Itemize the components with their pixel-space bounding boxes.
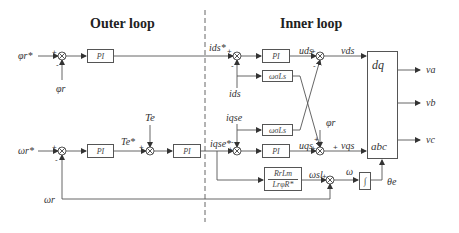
sum-ids: [233, 52, 241, 60]
speed-feedback-label: ωr: [44, 195, 55, 205]
pi-iqs-block: PI: [262, 144, 290, 158]
abc-label: abc: [371, 140, 387, 152]
flux-ref-label: φr*: [18, 51, 32, 61]
sum-torque: [146, 147, 154, 155]
theta-label: θe: [387, 177, 396, 187]
vb-output-label: vb: [426, 98, 435, 108]
sum-vqs: [316, 147, 324, 155]
slip-calc-block: RrLm LrφR*: [264, 167, 302, 191]
sign-minus: -: [313, 62, 316, 70]
dq-label: dq: [372, 58, 384, 73]
vqs-label: vqs: [341, 141, 354, 151]
pi-ids-block: PI: [262, 49, 290, 63]
sign-minus: -: [231, 138, 234, 146]
sign-plus: +: [139, 144, 144, 152]
flux-feedback-label: φr: [56, 84, 65, 94]
torque-feedback-label: Te: [145, 112, 155, 123]
vc-output-label: vc: [426, 135, 435, 145]
sum-vds: [316, 52, 324, 60]
sign-plus: +: [311, 145, 316, 153]
sum-speed: [58, 147, 66, 155]
sign-plus: +: [227, 48, 232, 56]
inner-loop-title: Inner loop: [280, 16, 342, 32]
sign-plus: +: [52, 49, 57, 57]
decoupling-d-block: ωσLs: [262, 70, 293, 82]
sign-plus: +: [228, 146, 233, 154]
sign-minus: -: [56, 61, 59, 69]
slip-freq-label: ωsl: [309, 170, 323, 180]
ids-ref-label: ids*: [209, 43, 226, 53]
foc-block-diagram: Outer loop Inner loop PI PI PI PI PI ωσL…: [0, 0, 459, 233]
decoupling-q-block: ωσLs: [262, 124, 293, 136]
sign-plus: +: [52, 144, 57, 152]
sign-minus: -: [231, 62, 234, 70]
sign-minus: -: [55, 156, 58, 164]
omega-label: ω: [346, 167, 353, 177]
sign-plus: +: [333, 144, 338, 152]
sign-plus: +: [311, 48, 316, 56]
torque-ref-label: Te*: [121, 137, 135, 147]
ids-feedback-label: ids: [229, 89, 241, 99]
slip-denominator: LrφR*: [273, 181, 294, 189]
sum-iqs: [233, 147, 241, 155]
dq-abc-transform-block: dq abc: [367, 51, 398, 159]
outer-loop-title: Outer loop: [90, 16, 155, 32]
integrator-block: ∫: [359, 172, 371, 190]
pi-speed-block: PI: [87, 144, 114, 158]
speed-ref-label: ωr*: [18, 146, 34, 156]
sum-omega: [326, 176, 334, 184]
sum-flux: [58, 52, 66, 60]
flux-feedforward-label: φr: [326, 118, 335, 128]
pi-torque-block: PI: [173, 144, 201, 158]
sign-plus: +: [322, 173, 327, 181]
vds-label: vds: [341, 46, 354, 56]
sign-plus: +: [314, 136, 319, 144]
pi-flux-block: PI: [87, 49, 114, 63]
slip-fraction: RrLm LrφR*: [268, 170, 298, 189]
va-output-label: va: [426, 65, 435, 75]
iqs-feedback-label: iqse: [226, 113, 242, 123]
slip-numerator: RrLm: [274, 170, 292, 178]
